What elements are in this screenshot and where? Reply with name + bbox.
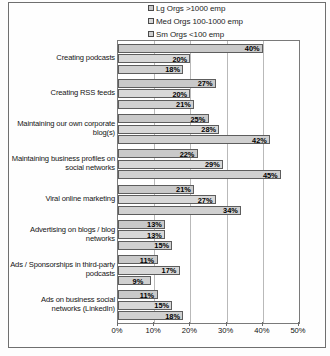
legend-swatch-icon xyxy=(148,5,154,11)
bar-value-label: 22% xyxy=(180,151,195,158)
bar-value-label: 20% xyxy=(172,91,187,98)
bar-value-label: 25% xyxy=(191,116,206,123)
bars-layer: 40%20%18%27%20%21%25%28%42%22%29%45%21%2… xyxy=(118,41,299,323)
category-axis-labels: Creating podcastsCreating RSS feedsMaint… xyxy=(10,40,115,324)
category-label: Advertising on blogs / blog networks xyxy=(10,225,115,243)
chart-figure: Lg Orgs >1000 empMed Orgs 100-1000 empSm… xyxy=(0,0,330,356)
chart-legend: Lg Orgs >1000 empMed Orgs 100-1000 empSm… xyxy=(148,2,298,41)
plot-area: 40%20%18%27%20%21%25%28%42%22%29%45%21%2… xyxy=(117,40,300,324)
bar-value-label: 15% xyxy=(154,242,169,249)
bar-value-label: 18% xyxy=(165,66,180,73)
bar-value-label: 27% xyxy=(198,80,213,87)
category-label: Maintaining business profiles on social … xyxy=(10,154,115,172)
tick-label: 50% xyxy=(290,326,305,335)
legend-label: Lg Orgs >1000 emp xyxy=(156,4,225,13)
bar xyxy=(118,135,270,144)
legend-item-0: Lg Orgs >1000 emp xyxy=(148,2,298,14)
bar-value-label: 11% xyxy=(140,257,154,264)
legend-swatch-icon xyxy=(148,18,154,24)
bar-value-label: 45% xyxy=(263,172,278,179)
category-label: Creating podcasts xyxy=(10,53,115,62)
legend-item-1: Med Orgs 100-1000 emp xyxy=(148,15,298,27)
tick-label: 20% xyxy=(182,326,197,335)
bar-value-label: 9% xyxy=(133,278,144,285)
bar-value-label: 34% xyxy=(223,207,238,214)
bar-value-label: 13% xyxy=(147,221,162,228)
bar-value-label: 18% xyxy=(165,313,180,320)
bar-value-label: 17% xyxy=(162,267,177,274)
tick-label: 40% xyxy=(254,326,269,335)
bar-value-label: 40% xyxy=(245,45,260,52)
bar-value-label: 21% xyxy=(176,101,191,108)
legend-item-2: Sm Orgs <100 emp xyxy=(148,28,298,40)
bar-value-label: 21% xyxy=(176,186,191,193)
bar-value-label: 29% xyxy=(205,161,220,168)
category-label: Maintaining our own corporate blog(s) xyxy=(10,119,115,137)
legend-swatch-icon xyxy=(148,31,154,37)
bar-value-label: 15% xyxy=(154,302,169,309)
bar-value-label: 28% xyxy=(201,126,216,133)
tick-label: 30% xyxy=(218,326,233,335)
bar-value-label: 11% xyxy=(140,292,154,299)
value-axis-ticks: 0%10%20%30%40%50% xyxy=(117,326,300,340)
bar xyxy=(118,170,281,179)
bar-value-label: 42% xyxy=(252,137,267,144)
legend-label: Sm Orgs <100 emp xyxy=(156,30,224,39)
category-label: Ads / Sponsorships in third-party podcas… xyxy=(10,260,115,278)
bar-value-label: 27% xyxy=(198,197,213,204)
bar-value-label: 20% xyxy=(172,56,187,63)
category-label: Ads on business social networks (LinkedI… xyxy=(10,295,115,313)
legend-label: Med Orgs 100-1000 emp xyxy=(156,17,243,26)
tick-label: 10% xyxy=(146,326,161,335)
tick-label: 0% xyxy=(112,326,123,335)
category-label: Viral online marketing xyxy=(10,194,115,203)
bar-value-label: 13% xyxy=(147,232,162,239)
category-label: Creating RSS feeds xyxy=(10,88,115,97)
bar xyxy=(118,44,263,53)
